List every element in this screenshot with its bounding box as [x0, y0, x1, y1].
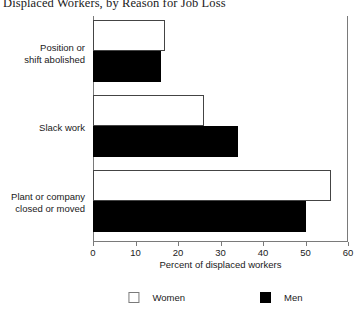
y-axis-label-line: Slack work	[0, 122, 85, 134]
y-axis-label-position-or-shift-abolished: Position or shift abolished	[0, 42, 85, 65]
y-axis-label-line: closed or moved	[0, 203, 85, 215]
y-axis-label-line: Position or	[0, 42, 85, 54]
x-axis-tick	[263, 242, 264, 246]
bar-men-plant-or-company-closed-or-moved	[93, 201, 306, 232]
legend-item-men: Men	[260, 292, 302, 303]
y-axis-label-plant-or-company-closed-or-moved: Plant or company closed or moved	[0, 191, 85, 214]
x-axis-tick-label: 10	[130, 247, 141, 258]
y-axis-label-slack-work: Slack work	[0, 122, 85, 134]
y-axis-category-labels: Position or shift abolished Slack work P…	[0, 16, 89, 242]
x-axis-tick-label: 60	[343, 247, 354, 258]
plot-area: 0 10 20 30 40 50 60	[93, 16, 348, 242]
x-axis-tick	[178, 242, 179, 246]
x-axis-tick	[306, 242, 307, 246]
legend-item-women: Women	[128, 292, 185, 303]
filled-square-swatch-icon	[260, 292, 271, 303]
bar-women-plant-or-company-closed-or-moved	[93, 170, 331, 201]
x-axis-tick-label: 0	[90, 247, 95, 258]
bar-women-position-or-shift-abolished	[93, 20, 165, 51]
x-axis-title: Percent of displaced workers	[93, 259, 348, 270]
bar-men-position-or-shift-abolished	[93, 51, 161, 82]
bar-women-slack-work	[93, 95, 204, 126]
x-axis-tick-label: 40	[258, 247, 269, 258]
hollow-square-swatch-icon	[128, 292, 139, 303]
chart-legend: Women Men	[0, 289, 358, 309]
y-axis-label-line: Plant or company	[0, 191, 85, 203]
legend-label-men: Men	[284, 292, 302, 303]
legend-label-women: Women	[152, 292, 185, 303]
x-axis-tick-label: 20	[173, 247, 184, 258]
plot-right-border	[347, 16, 348, 242]
x-axis-tick	[348, 242, 349, 246]
y-axis-label-line: shift abolished	[0, 54, 85, 66]
bar-men-slack-work	[93, 126, 238, 157]
x-axis-tick-label: 30	[215, 247, 226, 258]
x-axis-tick	[136, 242, 137, 246]
page-title: Displaced Workers, by Reason for Job Los…	[3, 0, 226, 11]
x-axis-tick	[221, 242, 222, 246]
chart-figure: Displaced Workers, by Reason for Job Los…	[0, 0, 358, 315]
x-axis-tick	[93, 242, 94, 246]
x-axis-tick-label: 50	[300, 247, 311, 258]
